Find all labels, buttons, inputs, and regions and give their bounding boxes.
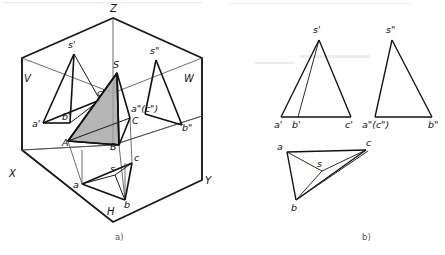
ortho-top-edge-b-c-second xyxy=(296,151,368,200)
ortho-label-a-c-double-prime: a"(c") xyxy=(362,119,389,130)
front-view-s-prime xyxy=(281,40,351,117)
part-b-orthographic: s' a' b' c' s" a"(c") b" s a c b xyxy=(274,24,438,213)
vertex-label-c-plan: c xyxy=(134,152,140,163)
vertex-label-a-plan: a xyxy=(73,179,79,190)
ortho-front-edge-s-b xyxy=(298,40,319,117)
ortho-side-edge-s-a xyxy=(375,40,392,117)
w-edge-s-b xyxy=(156,60,182,125)
plane-label-w: W xyxy=(184,73,195,84)
ortho-label-b-plan: b xyxy=(291,202,297,213)
plane-label-v: V xyxy=(24,73,32,84)
vertex-label-b-double-prime: b" xyxy=(182,122,192,133)
ortho-label-b-double-prime: b" xyxy=(428,119,438,130)
part-a-pictorial: V W H Z X Y s' a' b' c' s" a"(c") b" s a… xyxy=(8,3,212,222)
axis-label-z: Z xyxy=(109,3,118,14)
caption-part-a: a) xyxy=(115,232,124,242)
vertex-label-b-prime: b' xyxy=(62,111,71,122)
ortho-label-b-prime: b' xyxy=(292,119,301,130)
vertex-label-s-double-prime: s" xyxy=(150,45,159,56)
ortho-top-edge-a-c xyxy=(287,150,366,152)
h-edge-b-c xyxy=(125,163,132,200)
ortho-front-edge-s-c xyxy=(319,40,351,117)
vertex-label-a-c-double-prime: a"(c") xyxy=(131,103,158,114)
ortho-label-a-plan: a xyxy=(277,141,283,152)
vertex-label-a-prime: a' xyxy=(32,118,40,129)
plane-label-h: H xyxy=(107,206,115,217)
orthographic-vertex-labels: s' a' b' c' s" a"(c") b" s a c b xyxy=(274,24,438,213)
ortho-label-c-prime: c' xyxy=(345,119,353,130)
technical-drawing-figure: V W H Z X Y s' a' b' c' s" a"(c") b" s a… xyxy=(0,0,445,255)
side-view-triangle-on-w-plane xyxy=(145,60,182,125)
w-edge-a-b xyxy=(145,114,182,125)
caption-part-b: b) xyxy=(362,232,371,242)
ortho-label-c-plan: c xyxy=(366,137,372,148)
vertex-label-b-plan: b xyxy=(124,199,130,210)
ortho-label-a-prime: a' xyxy=(274,119,282,130)
h-edge-c-a xyxy=(82,163,132,184)
axis-label-x: X xyxy=(8,168,17,179)
ortho-side-edge-s-b xyxy=(392,40,432,117)
vertex-label-c-prime: c' xyxy=(97,87,105,98)
vertex-label-s-prime: s' xyxy=(68,39,76,50)
ortho-top-edge-b-a xyxy=(287,152,296,200)
vertex-label-s-plan: s xyxy=(110,163,115,174)
ortho-front-edge-s-a xyxy=(281,40,319,117)
axis-label-y: Y xyxy=(205,175,212,186)
figure-captions: a) b) xyxy=(115,232,371,242)
ortho-label-s-prime: s' xyxy=(313,24,321,35)
top-view-plan xyxy=(287,150,368,200)
scan-artifacts xyxy=(2,2,410,64)
ortho-label-s-plan: s xyxy=(317,158,322,169)
vertex-label-c-space: C xyxy=(132,115,139,126)
side-view-s-double-prime xyxy=(375,40,432,117)
solid-edge-s-c xyxy=(117,73,130,118)
drawing-canvas: V W H Z X Y s' a' b' c' s" a"(c") b" s a… xyxy=(0,0,445,255)
vertex-label-s-space: S xyxy=(113,59,119,70)
ortho-label-s-double-prime: s" xyxy=(386,24,395,35)
vertex-label-b-space: B xyxy=(110,141,117,152)
vertex-label-a-space: A xyxy=(61,137,69,148)
h-edge-a-b xyxy=(82,184,125,200)
